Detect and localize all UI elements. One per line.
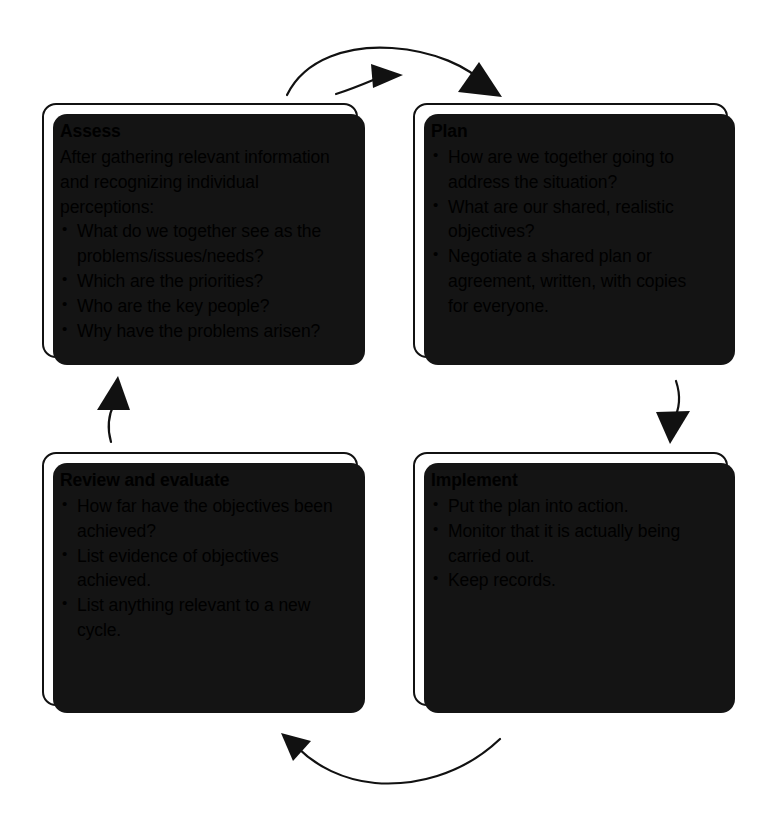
list-item: List anything relevant to a new cycle. — [60, 593, 340, 643]
node-plan[interactable]: Plan How are we together going to addres… — [413, 103, 728, 358]
arrow-review-to-assess — [97, 376, 130, 442]
node-implement-title: Implement — [431, 468, 710, 493]
list-item: Why have the problems arisen? — [60, 319, 340, 344]
arrow-assess-to-plan — [287, 48, 502, 97]
list-item: Which are the priorities? — [60, 269, 340, 294]
arrow-assess-to-plan-short — [336, 64, 403, 94]
list-item: How far have the objectives been achieve… — [60, 494, 340, 544]
node-assess[interactable]: Assess After gathering relevant informat… — [42, 103, 358, 358]
node-assess-intro: After gathering relevant information and… — [60, 145, 340, 220]
node-review-bullets: How far have the objectives been achieve… — [60, 494, 340, 643]
list-item: Keep records. — [431, 568, 710, 593]
node-plan-title: Plan — [431, 119, 710, 144]
list-item: List evidence of objectives achieved. — [60, 544, 340, 594]
list-item: What do we together see as the problems/… — [60, 219, 340, 269]
arrow-plan-to-implement — [656, 381, 690, 444]
node-plan-bullets: How are we together going to address the… — [431, 145, 710, 319]
list-item: How are we together going to address the… — [431, 145, 710, 195]
list-item: Put the plan into action. — [431, 494, 710, 519]
node-review[interactable]: Review and evaluate How far have the obj… — [42, 452, 358, 706]
list-item: What are our shared, realistic objective… — [431, 195, 710, 245]
list-item: Negotiate a shared plan or agreement, wr… — [431, 244, 710, 319]
node-implement[interactable]: Implement Put the plan into action. Moni… — [413, 452, 728, 706]
node-implement-bullets: Put the plan into action. Monitor that i… — [431, 494, 710, 593]
list-item: Who are the key people? — [60, 294, 340, 319]
list-item: Monitor that it is actually being carrie… — [431, 519, 710, 569]
arrow-implement-to-review — [281, 733, 500, 783]
diagram-canvas: Assess After gathering relevant informat… — [0, 0, 774, 824]
node-review-title: Review and evaluate — [60, 468, 340, 493]
node-assess-title: Assess — [60, 119, 340, 144]
node-assess-bullets: What do we together see as the problems/… — [60, 219, 340, 343]
